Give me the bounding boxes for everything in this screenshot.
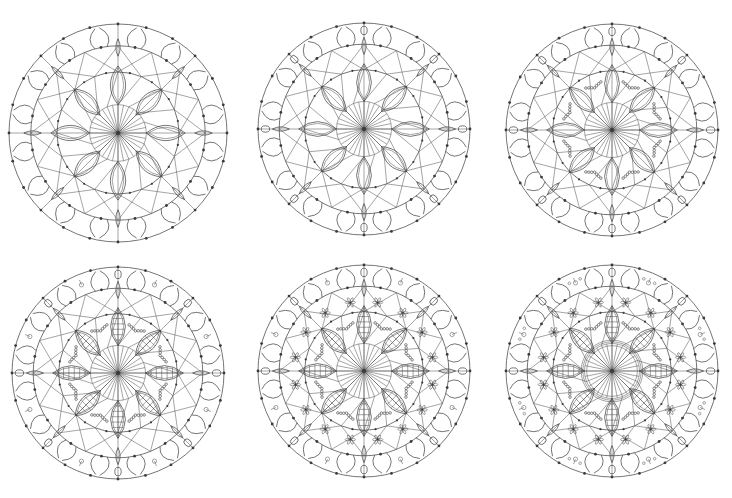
node-dot: [22, 186, 25, 189]
tulip-edge: [62, 447, 76, 461]
node-dot: [594, 45, 597, 48]
center-ray: [98, 133, 118, 153]
node-dot: [177, 120, 179, 122]
tulip-edge: [30, 71, 49, 80]
node-dot: [611, 23, 614, 26]
node-dot: [446, 353, 449, 356]
node-dot: [25, 425, 28, 428]
tulip-edge: [431, 423, 449, 432]
node-dot: [62, 226, 65, 229]
node-dot: [68, 59, 71, 62]
node-dot: [396, 177, 398, 179]
tulip-edge: [664, 286, 673, 304]
node-dot: [68, 204, 71, 207]
node-dot: [416, 278, 419, 281]
tulip-edge: [192, 317, 206, 331]
tulip-edge: [337, 211, 342, 231]
node-dot: [117, 478, 120, 481]
tulip-edge: [127, 271, 136, 289]
tulip-edge: [33, 312, 51, 321]
tulip-edge: [127, 220, 137, 239]
node-dot: [279, 353, 282, 356]
tulip-edge: [57, 288, 66, 306]
node-dot: [330, 79, 332, 81]
node-dot: [346, 211, 349, 214]
node-dot: [164, 442, 167, 445]
node-dot: [100, 46, 103, 49]
node-dot: [223, 372, 226, 375]
center-ray: [345, 352, 364, 371]
node-dot: [129, 72, 131, 74]
node-dot: [412, 161, 414, 163]
tulip-edge: [202, 156, 222, 161]
node-dot: [305, 139, 307, 141]
tulip-edge: [654, 42, 668, 56]
node-dot: [288, 53, 291, 56]
node-dot: [177, 144, 179, 146]
tulip-edge: [696, 139, 714, 148]
node-dot: [553, 381, 555, 383]
node-dot: [40, 209, 43, 212]
node-dot: [128, 314, 130, 316]
tulip-edge: [194, 176, 208, 190]
center-ray: [612, 352, 631, 371]
node-dot: [644, 321, 646, 323]
node-dot: [410, 57, 413, 60]
tulip-edge: [200, 395, 220, 400]
tulip-edge: [337, 28, 342, 48]
tulip-edge: [594, 269, 603, 287]
center-ray: [118, 113, 138, 133]
tulip-edge: [28, 176, 42, 190]
node-dot: [40, 55, 43, 58]
node-dot: [627, 453, 630, 456]
tulip-edge: [346, 213, 355, 231]
node-dot: [622, 71, 624, 73]
node-dot: [222, 160, 225, 163]
node-dot: [644, 178, 646, 180]
tulip-edge: [373, 213, 382, 231]
node-dot: [454, 181, 457, 184]
node-dot: [260, 342, 263, 345]
tulip-edge: [346, 455, 355, 473]
node-dot: [310, 36, 313, 39]
tulip-edge: [551, 286, 560, 304]
node-dot: [540, 322, 543, 325]
tulip-edge: [438, 171, 452, 185]
node-dot: [433, 417, 436, 420]
node-dot: [187, 324, 190, 327]
node-dot: [686, 445, 689, 448]
tulip-edge: [431, 68, 449, 77]
mandala-5: [257, 264, 472, 479]
tulip-edge: [279, 423, 297, 432]
node-dot: [192, 447, 195, 450]
tulip-edge: [33, 425, 51, 434]
tulip-edge: [100, 457, 109, 475]
tulip-edge: [187, 186, 206, 195]
node-dot: [133, 288, 136, 291]
tulip-edge: [263, 102, 283, 107]
node-dot: [686, 204, 689, 207]
node-dot: [31, 149, 34, 152]
tulip-edge: [679, 182, 697, 191]
node-dot: [578, 419, 580, 421]
node-dot: [390, 25, 393, 28]
tulip-edge: [30, 317, 44, 331]
node-dot: [563, 199, 566, 202]
tulip-edge: [171, 45, 180, 64]
node-dot: [189, 180, 192, 183]
tulip-edge: [262, 380, 280, 389]
tulip-edge: [694, 344, 714, 349]
node-dot: [416, 461, 419, 464]
tulip-edge: [194, 75, 208, 89]
node-dot: [562, 96, 564, 98]
center-dot: [610, 369, 614, 373]
node-dot: [279, 144, 282, 147]
tulip-edge: [170, 440, 179, 458]
node-dot: [171, 37, 174, 40]
tulip-edge: [416, 44, 425, 62]
node-dot: [508, 101, 511, 104]
node-dot: [260, 100, 263, 103]
tulip-edge: [276, 73, 290, 87]
center-dot: [362, 369, 366, 373]
node-dot: [89, 269, 92, 272]
